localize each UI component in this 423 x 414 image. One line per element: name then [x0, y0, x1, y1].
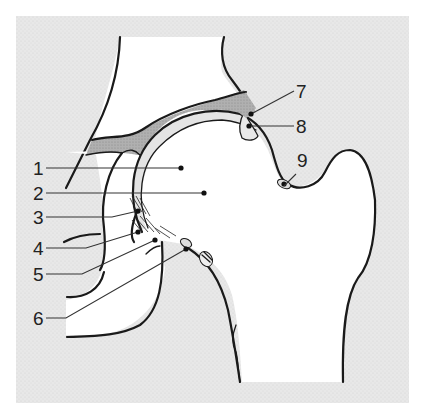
label-2: 2 — [33, 183, 44, 204]
label-7: 7 — [296, 81, 307, 102]
label-1: 1 — [33, 158, 44, 179]
label-8: 8 — [296, 116, 307, 137]
label-9: 9 — [297, 150, 308, 171]
hip-joint-diagram: 1 2 3 4 5 6 7 8 9 — [0, 0, 423, 414]
label-3: 3 — [33, 207, 44, 228]
label-6: 6 — [33, 308, 44, 329]
label-4: 4 — [33, 238, 44, 259]
label-5: 5 — [33, 264, 44, 285]
